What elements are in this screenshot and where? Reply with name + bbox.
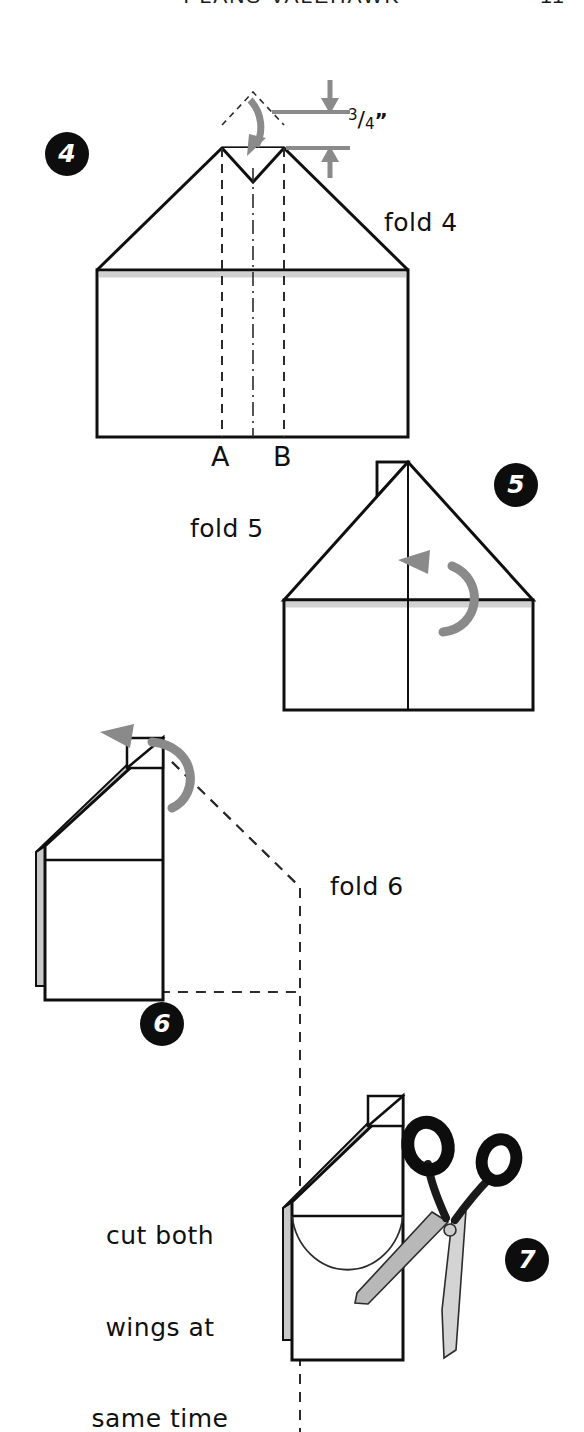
dimension-denominator: 4 — [365, 115, 375, 133]
step-4-dimension-label: 3/4” — [348, 106, 388, 133]
step-4-drawing — [0, 60, 584, 420]
step-5-badge: 5 — [494, 463, 538, 507]
step-4-caption: fold 4 — [384, 208, 458, 239]
step-7-body-outline — [292, 1096, 403, 1360]
step-7-caption: cut both wings at same time — [60, 1160, 260, 1432]
dimension-numerator: 3 — [348, 106, 358, 124]
page-folio: 11 — [540, 0, 566, 6]
step-6-body-outline — [45, 738, 163, 1000]
step-5-caption: fold 5 — [190, 514, 264, 545]
dimension-unit: ” — [375, 108, 388, 132]
step-6-drawing — [0, 720, 584, 1060]
step-7-badge: 7 — [505, 1238, 549, 1282]
step-6-badge: 6 — [140, 1002, 184, 1046]
step-6-caption: fold 6 — [330, 872, 404, 903]
step-5-figure: fold 5 5 — [0, 440, 584, 720]
step-7-caption-line-3: same time — [60, 1404, 260, 1432]
page-header: PLANS VALEHAWK 11 — [0, 0, 584, 6]
step-7-caption-line-1: cut both — [60, 1221, 260, 1252]
step-6-figure: fold 6 6 — [0, 720, 584, 1060]
step-7-caption-line-2: wings at — [60, 1313, 260, 1344]
dimension-slash: / — [358, 107, 365, 132]
header-title: PLANS VALEHAWK — [183, 0, 400, 6]
step-4-badge: 4 — [45, 132, 89, 176]
step-7-figure: cut both wings at same time 7 — [0, 1060, 584, 1400]
instruction-page: PLANS VALEHAWK 11 — [0, 0, 584, 1432]
step-4-figure: 3/4” fold 4 4 A B — [0, 60, 584, 420]
